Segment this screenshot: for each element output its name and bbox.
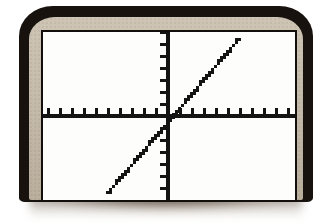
y-axis-tick <box>160 163 166 166</box>
curve-pixel <box>121 176 124 179</box>
curve-pixel <box>208 74 211 77</box>
x-axis-tick <box>47 108 50 114</box>
x-axis-tick <box>263 108 266 114</box>
curve-pixel <box>226 53 229 56</box>
curve-pixel <box>160 131 163 134</box>
curve-pixel <box>127 167 130 170</box>
curve-pixel <box>232 44 235 47</box>
y-axis-tick <box>160 67 166 70</box>
curve-pixel <box>178 107 181 110</box>
calculator-graph-screen[interactable] <box>43 32 295 200</box>
curve-pixel <box>127 170 130 173</box>
y-axis-tick <box>160 151 166 154</box>
x-axis-tick <box>71 108 74 114</box>
y-axis-tick <box>160 32 166 34</box>
x-axis-tick <box>83 108 86 114</box>
curve-pixel <box>214 65 217 68</box>
curve-pixel <box>238 38 241 41</box>
x-axis-tick <box>107 108 110 114</box>
curve-pixel <box>145 146 148 149</box>
curve-pixel <box>229 47 232 50</box>
x-axis-tick <box>239 108 242 114</box>
curve-pixel <box>235 41 238 44</box>
curve-pixel <box>196 86 199 89</box>
curve-pixel <box>178 110 181 113</box>
y-axis-tick <box>160 175 166 178</box>
curve-pixel <box>199 83 202 86</box>
x-axis-tick <box>251 108 254 114</box>
graph-plot-area <box>43 32 295 200</box>
x-axis-tick <box>215 108 218 114</box>
curve-pixel <box>223 56 226 59</box>
curve-pixel <box>109 191 112 194</box>
curve-pixel <box>139 155 142 158</box>
curve-pixel <box>124 173 127 176</box>
curve-pixel <box>136 158 139 161</box>
curve-pixel <box>217 62 220 65</box>
curve-pixel <box>190 95 193 98</box>
curve-pixel <box>196 89 199 92</box>
calculator-screenshot <box>0 0 331 224</box>
y-axis-tick <box>160 91 166 94</box>
x-axis-tick <box>275 108 278 114</box>
x-axis-tick <box>227 108 230 114</box>
x-axis-tick <box>119 108 122 114</box>
y-axis-tick <box>160 187 166 190</box>
curve-pixel <box>184 101 187 104</box>
y-axis-tick <box>160 139 166 142</box>
x-axis-tick <box>155 108 158 114</box>
x-axis-tick <box>143 108 146 114</box>
x-axis-tick <box>95 108 98 114</box>
curve-pixel <box>229 50 232 53</box>
curve-pixel <box>109 188 112 191</box>
curve-pixel <box>220 59 223 62</box>
y-axis-tick <box>160 103 166 106</box>
curve-pixel <box>172 116 175 119</box>
curve-pixel <box>181 104 184 107</box>
curve-pixel <box>160 128 163 131</box>
x-axis-tick <box>59 108 62 114</box>
curve-pixel <box>130 164 133 167</box>
curve-pixel <box>157 134 160 137</box>
y-axis-tick <box>160 43 166 46</box>
curve-pixel <box>187 98 190 101</box>
curve-pixel <box>163 125 166 128</box>
curve-pixel <box>115 182 118 185</box>
x-axis-tick <box>287 108 290 114</box>
x-axis-tick <box>191 108 194 114</box>
curve-pixel <box>175 113 178 116</box>
curve-pixel <box>145 149 148 152</box>
y-axis-tick <box>160 79 166 82</box>
y-axis-tick <box>160 55 166 58</box>
curve-pixel <box>148 143 151 146</box>
curve-pixel <box>118 179 121 182</box>
x-axis-tick <box>131 108 134 114</box>
curve-pixel <box>151 140 154 143</box>
curve-pixel <box>202 80 205 83</box>
curve-pixel <box>193 92 196 95</box>
curve-pixel <box>205 77 208 80</box>
curve-pixel <box>211 71 214 74</box>
curve-pixel <box>211 68 214 71</box>
curve-pixel <box>154 137 157 140</box>
curve-pixel <box>166 122 169 125</box>
curve-pixel <box>169 119 172 122</box>
curve-pixel <box>112 185 115 188</box>
curve-pixel <box>133 161 136 164</box>
x-axis-tick <box>203 108 206 114</box>
curve-pixel <box>142 152 145 155</box>
